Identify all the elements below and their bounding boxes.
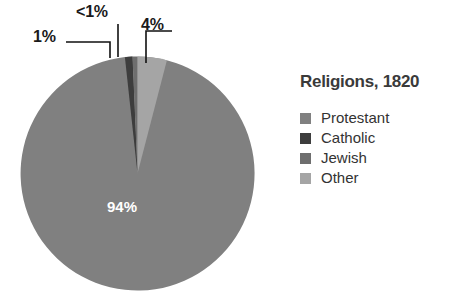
legend-item-other[interactable]: Other	[300, 168, 464, 188]
pie-chart-figure: 1% <1% 4% 94% Religions, 1820 Protestant…	[0, 0, 464, 297]
callout-leader-catholic	[66, 42, 110, 58]
legend-swatch-protestant	[300, 113, 311, 124]
chart-legend: Religions, 1820 Protestant Catholic Jewi…	[300, 72, 464, 188]
legend-label-catholic: Catholic	[321, 128, 375, 148]
legend-item-protestant[interactable]: Protestant	[300, 108, 464, 128]
callout-label-jewish: <1%	[76, 3, 108, 21]
slice-value-protestant: 94%	[107, 198, 137, 215]
legend-swatch-catholic	[300, 133, 311, 144]
legend-title: Religions, 1820	[300, 72, 464, 92]
legend-label-jewish: Jewish	[321, 148, 367, 168]
pie-plot-area: 1% <1% 4% 94%	[0, 0, 285, 297]
legend-swatch-other	[300, 173, 311, 184]
legend-item-jewish[interactable]: Jewish	[300, 148, 464, 168]
callout-label-catholic: 1%	[33, 28, 56, 46]
legend-item-catholic[interactable]: Catholic	[300, 128, 464, 148]
legend-label-protestant: Protestant	[321, 108, 389, 128]
callout-label-other: 4%	[141, 16, 164, 34]
legend-swatch-jewish	[300, 153, 311, 164]
legend-label-other: Other	[321, 168, 359, 188]
